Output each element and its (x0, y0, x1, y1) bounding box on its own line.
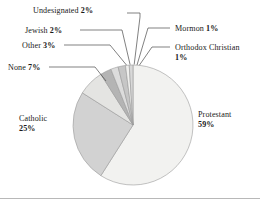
slice-label-protestant-name: Protestant (198, 110, 256, 120)
slice-label-other-name: Other (22, 41, 41, 50)
chart-frame-bottom-border (0, 198, 260, 199)
slice-label-none-name: None (8, 63, 26, 72)
slice-label-catholic-name: Catholic (19, 114, 71, 124)
slice-label-other: Other 3% (22, 41, 55, 51)
slice-label-mormon: Mormon 1% (175, 24, 218, 34)
slice-label-other-value: 3% (43, 41, 55, 50)
slice-label-orthodox-christian: Orthodox Christian 1% (175, 43, 259, 62)
slice-label-jewish: Jewish 2% (25, 26, 62, 36)
pie-chart: Protestant 59%Catholic 25%None 7%Other 3… (0, 0, 260, 199)
leader-undesignated (127, 13, 140, 65)
slice-label-jewish-value: 2% (50, 26, 62, 35)
slice-label-protestant-value: 59% (198, 120, 256, 130)
slice-label-mormon-name: Mormon (175, 24, 204, 33)
slice-label-none-value: 7% (28, 63, 40, 72)
slice-label-catholic-value: 25% (19, 124, 71, 134)
leader-mormon (137, 28, 170, 65)
slice-label-catholic: Catholic 25% (19, 114, 71, 133)
slice-label-undesignated: Undesignated 2% (33, 6, 93, 16)
pie-slice-group: Protestant 59%Catholic 25%None 7%Other 3… (73, 65, 193, 185)
leader-jewish (80, 30, 130, 65)
slice-label-undesignated-name: Undesignated (33, 6, 79, 15)
leader-other (64, 45, 127, 65)
slice-label-none: None 7% (8, 63, 40, 73)
slice-label-orthodox-christian-value: 1% (175, 53, 259, 63)
slice-label-undesignated-value: 2% (81, 6, 93, 15)
slice-label-protestant: Protestant 59% (198, 110, 256, 129)
slice-label-jewish-name: Jewish (25, 26, 48, 35)
leader-orthodox (139, 47, 170, 65)
slice-label-mormon-value: 1% (206, 24, 218, 33)
slice-label-orthodox-christian-name: Orthodox Christian (175, 43, 259, 53)
